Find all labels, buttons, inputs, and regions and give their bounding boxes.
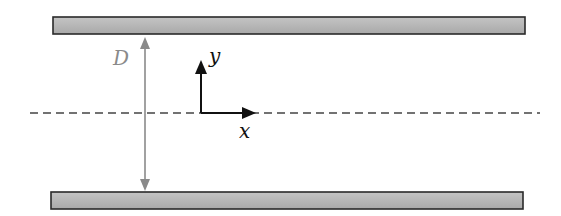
y-axis-label: y (209, 44, 220, 68)
gap-arrowhead-top-icon (140, 37, 150, 49)
parallel-plates-diagram (0, 0, 561, 216)
gap-label: D (113, 46, 129, 70)
gap-arrowhead-bottom-icon (140, 179, 150, 191)
x-arrowhead-icon (242, 107, 256, 119)
y-arrowhead-icon (195, 60, 207, 74)
x-axis-label: x (239, 119, 250, 143)
top-plate (53, 17, 525, 34)
bottom-plate (51, 192, 523, 209)
diagram-canvas: D y x (0, 0, 561, 216)
